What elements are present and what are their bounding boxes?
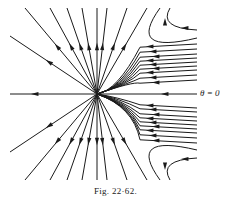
arrow-icon [149,133,156,137]
fan-streamline [97,75,197,94]
arrow-icon [121,43,127,50]
radial-streamline [10,94,97,152]
arrow-icon [152,54,159,58]
arrow-icon [69,137,74,145]
arrow-icon [163,18,167,25]
hook-streamline [167,158,197,180]
arrow-icon [146,128,153,132]
arrow-icon [152,80,159,84]
radial-streamline [67,8,97,94]
arrow-icon [110,137,114,145]
arrow-icon [100,43,104,51]
arrow-icon [152,138,159,142]
arrow-icon [149,49,156,53]
arrow-icon [146,70,153,74]
arrow-icon [146,116,153,120]
arrow-icon [161,92,168,96]
arrow-icon [152,124,159,128]
arrow-icon [146,44,153,48]
arrow-icon [31,92,38,96]
radial-streamline [10,36,97,94]
arrow-icon [110,43,114,51]
fan-streamline [97,94,197,133]
arrow-icon [163,163,167,170]
radial-streamline [25,8,97,94]
hook-streamline [167,8,197,30]
arrow-icon [149,107,156,111]
fan-streamline [97,70,197,94]
arrow-icon [79,137,83,145]
arrow-icon [152,112,159,116]
theta-zero-label: θ = 0 [200,88,220,98]
arrow-icon [146,58,153,62]
arrow-icon [46,122,53,128]
arrow-icon [149,75,156,79]
arrow-icon [100,138,104,146]
radial-streamline [67,94,97,180]
arrow-icon [46,60,53,66]
arrow-icon [149,120,156,124]
arrow-icon [152,66,159,70]
arrow-icon [79,43,83,51]
radial-streamline [25,94,97,180]
fan-streamline [97,66,197,94]
figure-caption: Fig. 22·62. [0,186,231,196]
arrow-icon [95,43,99,50]
arrow-icon [95,138,99,145]
streamline-diagram [0,0,231,203]
arrow-icon [181,157,188,161]
arrow-icon [69,43,74,51]
arrow-icon [149,62,156,66]
arrow-icon [181,26,188,30]
arrow-icon [146,103,153,107]
arrow-icon [121,137,127,144]
